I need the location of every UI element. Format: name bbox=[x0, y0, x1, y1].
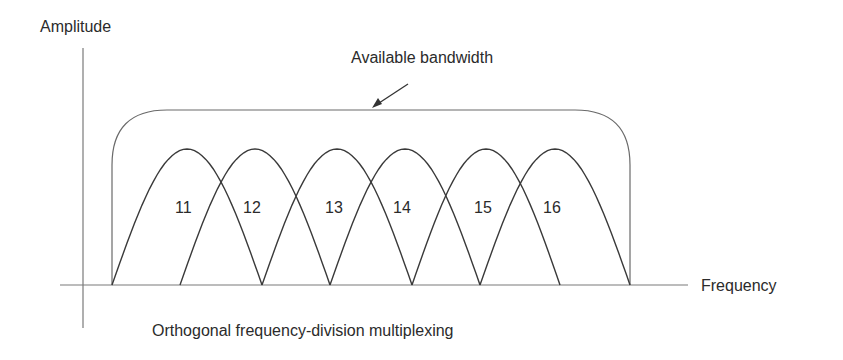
subcarrier-label-15: 15 bbox=[474, 199, 492, 216]
y-axis-label: Amplitude bbox=[40, 18, 111, 35]
subcarrier-arch-15 bbox=[412, 149, 560, 285]
bandwidth-annotation: Available bandwidth bbox=[351, 49, 493, 66]
subcarrier-label-11: 11 bbox=[175, 199, 192, 216]
subcarrier-label-12: 12 bbox=[243, 199, 261, 216]
annotation-arrow bbox=[376, 84, 408, 105]
diagram-caption: Orthogonal frequency-division multiplexi… bbox=[152, 322, 454, 339]
subcarrier-label-16: 16 bbox=[543, 199, 561, 216]
subcarrier-arches bbox=[112, 149, 630, 285]
subcarrier-arch-16 bbox=[480, 149, 630, 285]
subcarrier-label-14: 14 bbox=[393, 199, 411, 216]
x-axis-label: Frequency bbox=[701, 277, 777, 294]
ofdm-diagram: 111213141516 Amplitude Available bandwid… bbox=[0, 0, 843, 360]
subcarrier-label-13: 13 bbox=[325, 199, 343, 216]
arrowhead-icon bbox=[372, 98, 382, 108]
